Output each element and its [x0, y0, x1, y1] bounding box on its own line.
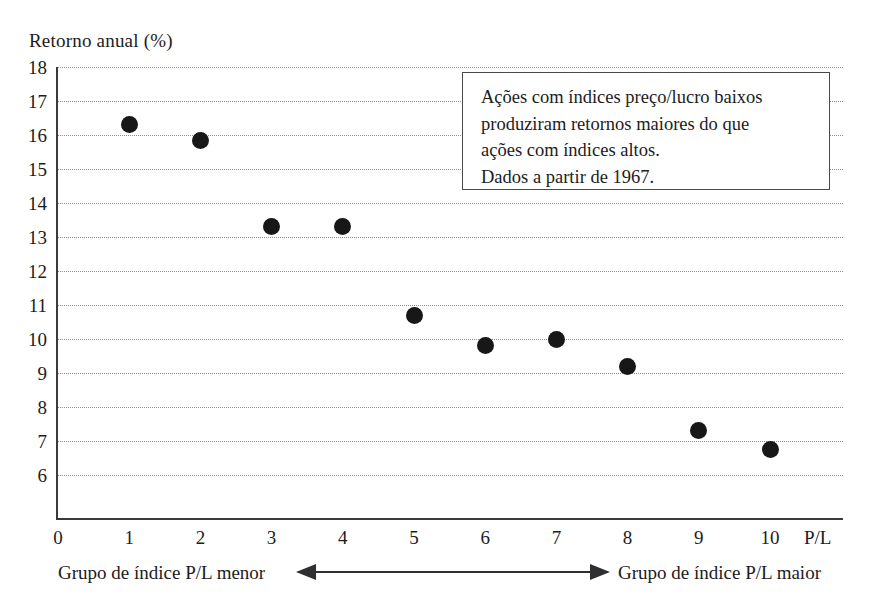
- x-axis-tick-label: 0: [38, 528, 78, 547]
- chart-page: Retorno anual (%) 1817161514131211109876…: [0, 0, 876, 616]
- gridline: [58, 339, 843, 340]
- y-axis-tick-label: 9: [5, 364, 47, 383]
- x-axis-tick-label: 3: [252, 528, 292, 547]
- data-point: [762, 441, 779, 458]
- caption-higher-pe-group: Grupo de índice P/L maior: [618, 562, 821, 584]
- x-axis-tick-label: 8: [608, 528, 648, 547]
- annotation-line: produziram retornos maiores do que: [481, 111, 815, 138]
- double-arrow-icon: [292, 561, 614, 583]
- data-point: [690, 422, 707, 439]
- gridline: [58, 475, 843, 476]
- x-axis-tick-label: 7: [536, 528, 576, 547]
- gridline: [58, 441, 843, 442]
- gridline: [58, 373, 843, 374]
- y-axis-tick-label: 16: [5, 126, 47, 145]
- y-axis-tick-label: 7: [5, 432, 47, 451]
- x-axis-tick-label: 4: [323, 528, 363, 547]
- y-axis-tick-label: 15: [5, 160, 47, 179]
- y-axis-tick-label: 6: [5, 466, 47, 485]
- data-point: [548, 331, 565, 348]
- annotation-textbox: Ações com índices preço/lucro baixos pro…: [462, 72, 830, 190]
- y-axis-tick-label: 14: [5, 194, 47, 213]
- x-axis-unit-label: P/L: [804, 528, 831, 547]
- x-axis-tick-label: 5: [394, 528, 434, 547]
- y-axis-tick-label: 12: [5, 262, 47, 281]
- caption-lower-pe-group: Grupo de índice P/L menor: [58, 562, 265, 584]
- y-axis-tick-label: 8: [5, 398, 47, 417]
- gridline: [58, 237, 843, 238]
- y-axis-tick-label: 11: [5, 296, 47, 315]
- data-point: [121, 116, 138, 133]
- data-point: [334, 218, 351, 235]
- x-axis-tick-label: 1: [109, 528, 149, 547]
- y-axis-tick-label: 17: [5, 92, 47, 111]
- y-axis-tick-label: 18: [5, 58, 47, 77]
- y-axis-tick-label: 13: [5, 228, 47, 247]
- gridline: [58, 271, 843, 272]
- data-point: [263, 218, 280, 235]
- x-axis-tick-label: 2: [180, 528, 220, 547]
- gridline: [58, 407, 843, 408]
- annotation-line: Ações com índices preço/lucro baixos: [481, 84, 815, 111]
- data-point: [406, 307, 423, 324]
- annotation-line: Dados a partir de 1967.: [481, 164, 815, 191]
- x-axis-tick-label: 6: [465, 528, 505, 547]
- annotation-line: ações com índices altos.: [481, 137, 815, 164]
- data-point: [619, 358, 636, 375]
- gridline: [58, 203, 843, 204]
- gridline: [58, 67, 843, 68]
- x-axis-tick-label: 9: [679, 528, 719, 547]
- data-point: [477, 337, 494, 354]
- x-axis-tick-label: 10: [750, 528, 790, 547]
- gridline: [58, 305, 843, 306]
- data-point: [192, 132, 209, 149]
- y-axis-tick-label: 10: [5, 330, 47, 349]
- page-title: Retorno anual (%): [29, 30, 173, 52]
